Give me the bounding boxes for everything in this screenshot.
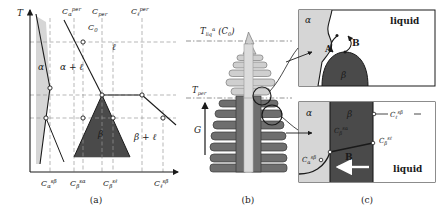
top-label-b: B [352, 38, 360, 48]
region-label-beta-liquid: β + ℓ [133, 132, 156, 142]
dendrite-branch [250, 79, 275, 86]
bottom-beta-region-lower [330, 143, 373, 182]
top-label-a: A [324, 44, 333, 54]
detail-box-bottom: α β liquid B Cℓsβ Cβsℓ Cβsα Cαsβ [286, 102, 435, 182]
bottom-label-b: B [345, 152, 353, 162]
dendrite-trunk-upper [244, 44, 253, 98]
panel-label-b: (b) [242, 195, 255, 205]
figure-root: T Cαper Cper C0 Cℓper Cαsβ Cβsα Cβsℓ Cℓs… [0, 0, 442, 211]
node-bottom-c-beta-sliquid [371, 141, 375, 145]
node-liquid-per [140, 93, 144, 97]
arrow-a-origin [336, 34, 339, 37]
dendrite-trunk-right [252, 96, 261, 172]
panel-label-a: (a) [90, 195, 102, 205]
node-peritectic [100, 93, 104, 97]
bottom-label-alpha: α [306, 108, 312, 118]
dendrite-core-lower [244, 96, 253, 172]
panel-label-c: (c) [361, 195, 373, 205]
detail-box-top: α β liquid A B [286, 10, 435, 86]
figure-svg: T Cαper Cper C0 Cℓper Cαsβ Cβsα Cβsℓ Cℓs… [0, 0, 442, 211]
node-beta-sliquid [111, 116, 115, 120]
node-alpha-sbeta [44, 116, 48, 120]
region-label-alpha-liquid: α + ℓ [60, 62, 83, 72]
node-bottom-c-liquid-sbeta [372, 112, 376, 116]
y-axis-label: T [17, 8, 24, 18]
top-label-beta: β [340, 70, 346, 80]
region-label-alpha: α [38, 62, 44, 72]
arrow-b-origin [344, 51, 347, 54]
node-alpha-per [48, 86, 52, 90]
top-label-liquid: liquid [390, 16, 420, 26]
top-label-alpha: α [305, 15, 311, 25]
region-label-beta: β [97, 129, 103, 139]
gradient-label: G [194, 125, 201, 135]
panel-c-detail: α β liquid A B [286, 10, 435, 205]
node-c0 [81, 40, 85, 44]
dendrite-trunk-left [236, 96, 245, 172]
region-label-liquid: ℓ [112, 42, 116, 52]
node-beta-salpha [81, 116, 85, 120]
bottom-label-beta: β [346, 109, 352, 119]
node-bottom-c-alpha-sbeta [319, 158, 323, 162]
bottom-label-liquid: liquid [393, 164, 423, 174]
node-bottom-triple [328, 150, 332, 154]
node-liquid-sbeta [161, 116, 165, 120]
